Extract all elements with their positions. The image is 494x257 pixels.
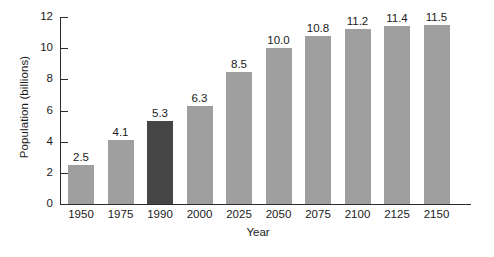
y-axis-tick-label: 10: [13, 42, 53, 54]
bar: [187, 106, 213, 204]
bar: [384, 26, 410, 204]
bar: [345, 29, 371, 204]
y-axis-tick-label: 0: [13, 198, 53, 210]
bar: [266, 48, 292, 204]
y-axis-tick-label: 6: [13, 105, 53, 117]
plot-area: 2.54.15.36.38.510.010.811.211.411.5: [60, 17, 470, 204]
bar-group: 5.3: [147, 17, 173, 204]
bar-group: 10.8: [305, 17, 331, 204]
bar-value-label: 5.3: [138, 107, 182, 119]
y-axis-tick-label: 2: [13, 167, 53, 179]
bar-group: 2.5: [68, 17, 94, 204]
bar: [108, 140, 134, 204]
y-axis-tick: [61, 204, 68, 205]
bar-value-label: 11.2: [336, 15, 380, 27]
bar-value-label: 11.4: [375, 12, 419, 24]
x-axis-title: Year: [228, 226, 288, 239]
bar-value-label: 11.5: [415, 11, 459, 23]
bar-value-label: 8.5: [217, 58, 261, 70]
bar-group: 10.0: [266, 17, 292, 204]
bar-group: 11.2: [345, 17, 371, 204]
bar-group: 6.3: [187, 17, 213, 204]
x-axis-tick-label: 2150: [414, 208, 460, 221]
bar: [147, 121, 173, 204]
y-axis-tick-label: 8: [13, 73, 53, 85]
bar: [68, 165, 94, 204]
bar-value-label: 10.0: [257, 34, 301, 46]
y-axis-tick-label: 12: [13, 11, 53, 23]
bar-value-label: 10.8: [296, 22, 340, 34]
y-axis-tick-label: 4: [13, 136, 53, 148]
bar-group: 4.1: [108, 17, 134, 204]
bar: [226, 72, 252, 204]
bar-value-label: 2.5: [59, 151, 103, 163]
bar-value-label: 6.3: [178, 92, 222, 104]
bar-value-label: 4.1: [99, 126, 143, 138]
bar: [424, 25, 450, 204]
population-bar-chart: Population (billions) 024681012 2.54.15.…: [0, 0, 494, 257]
bar-group: 11.4: [384, 17, 410, 204]
x-axis-line: [60, 204, 471, 205]
bar-group: 11.5: [424, 17, 450, 204]
bar: [305, 36, 331, 204]
bar-group: 8.5: [226, 17, 252, 204]
